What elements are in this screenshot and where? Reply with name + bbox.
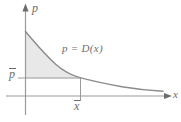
axis-label-x: x <box>173 89 178 100</box>
axis-horizontal-arrowhead <box>164 93 172 99</box>
curve-equation-label: p = D(x) <box>62 43 103 54</box>
axis-label-p: p <box>32 2 38 14</box>
price-level-label-text: p <box>9 68 15 80</box>
quantity-level-label: x <box>74 100 79 112</box>
figure-canvas <box>0 0 181 122</box>
price-level-label: p <box>9 68 15 80</box>
quantity-level-label-text: x <box>74 100 79 112</box>
figure-consumer-surplus: p x p = D(x) p x <box>0 0 181 122</box>
shaded-consumer-surplus-region <box>26 32 81 79</box>
axis-vertical-arrowhead <box>22 4 28 12</box>
